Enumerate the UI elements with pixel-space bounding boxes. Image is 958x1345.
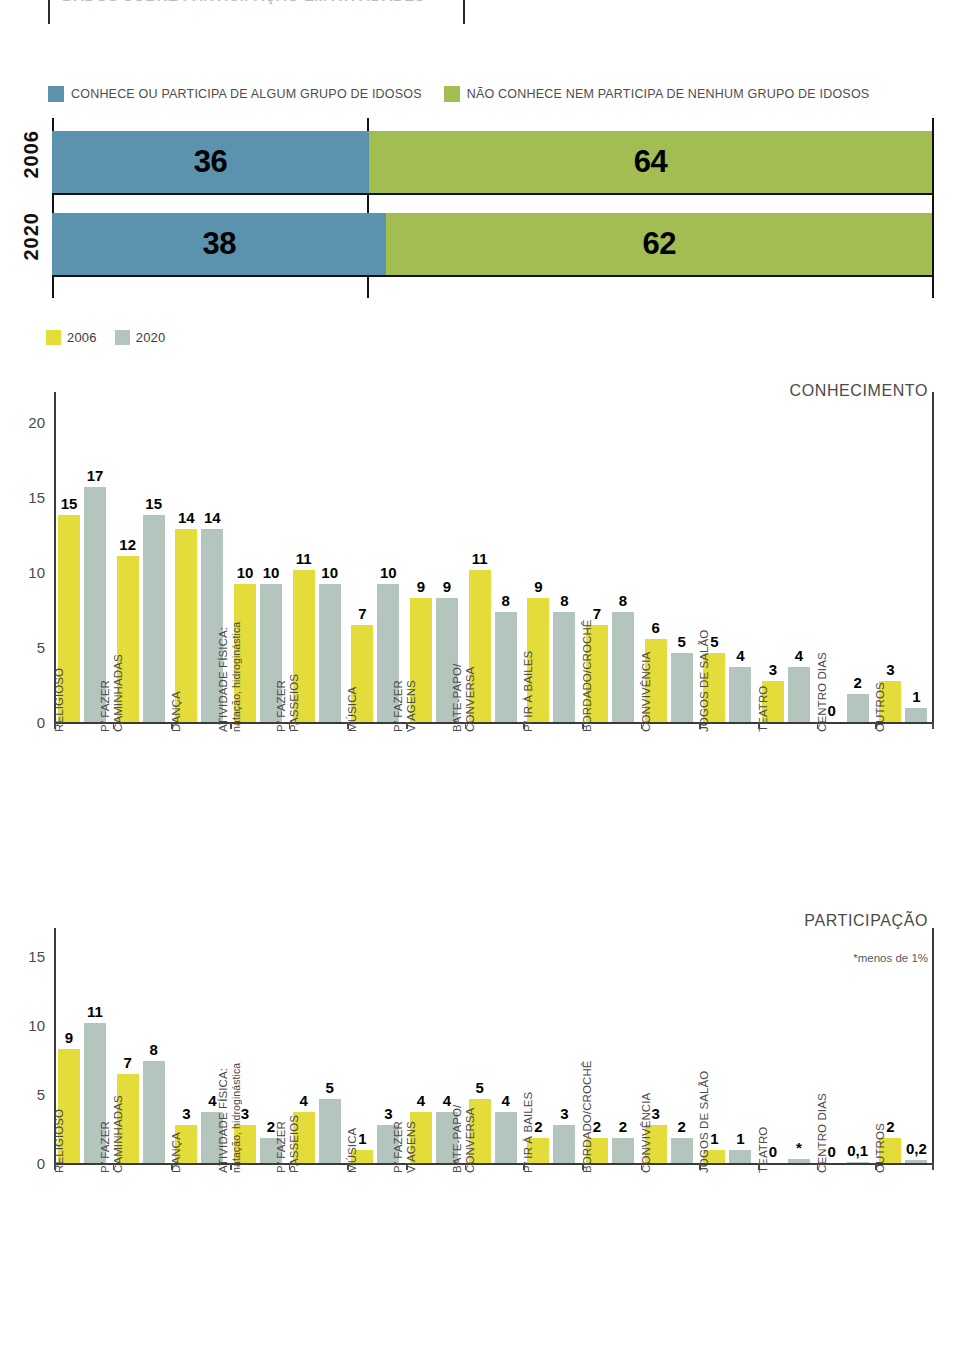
bar-2020[interactable] — [495, 612, 517, 722]
x-axis-label: OUTROS — [874, 682, 887, 732]
bar-value-label: 9 — [443, 578, 451, 595]
x-axis-label-line: BATE-PAPO/ — [450, 1105, 463, 1173]
bar-group[interactable]: 34 — [758, 392, 817, 722]
bar-2020[interactable] — [905, 708, 927, 722]
x-axis-label: BATE-PAPO/CONVERSA — [450, 664, 476, 732]
bar-value-label: 3 — [769, 661, 777, 678]
title-rule-left — [48, 0, 50, 24]
legend-swatch-olive — [444, 86, 460, 102]
bar-2020[interactable] — [847, 1162, 869, 1163]
stacked-value-not-2020: 62 — [642, 226, 675, 262]
bar-value-label: 11 — [296, 550, 312, 567]
bar-2020[interactable] — [671, 653, 693, 722]
bar-value-label: 8 — [619, 592, 627, 609]
bar-2020[interactable] — [788, 1159, 810, 1163]
bar-value-label: 10 — [380, 564, 397, 581]
bar-group[interactable]: 31 — [875, 392, 934, 722]
x-axis-label: JOGOS DE SALÃO — [698, 1071, 711, 1173]
x-axis-label-line: CAMINHADAS — [111, 654, 124, 732]
title-rule-right — [463, 0, 465, 24]
plot-area-conhecimento: 0510152015171215141410101110710991189878… — [54, 392, 934, 722]
x-axis-label: BORDADO/CROCHÊ — [581, 1060, 594, 1173]
x-axis-label-line: TEATRO — [757, 1127, 770, 1173]
x-axis-line — [54, 1163, 934, 1165]
x-axis-label: DANÇA — [170, 1132, 183, 1173]
y-tick-label: 10 — [28, 1016, 45, 1033]
stacked-segment-not-2006: 64 — [369, 131, 932, 193]
y-tick-label: 5 — [37, 639, 45, 656]
stacked-value-not-2006: 64 — [634, 144, 667, 180]
legend-item-conhece: CONHECE OU PARTICIPA DE ALGUM GRUPO DE I… — [48, 86, 422, 102]
bar-value-label: 3 — [182, 1105, 190, 1122]
bar-value-label: 7 — [123, 1054, 131, 1071]
bar-2020[interactable] — [319, 584, 341, 722]
bar-2020[interactable] — [553, 612, 575, 722]
bar-2020[interactable] — [612, 612, 634, 722]
x-axis-label-line: JOGOS DE SALÃO — [698, 630, 711, 732]
bar-value-label: 4 — [501, 1092, 509, 1109]
bar-value-label: 5 — [677, 633, 685, 650]
x-axis-label-line: OUTROS — [874, 1123, 887, 1173]
bar-value-label: 3 — [560, 1105, 568, 1122]
bar-2020[interactable] — [905, 1160, 927, 1163]
bar-value-label: 3 — [886, 661, 894, 678]
legend-label-nao-conhece: NÃO CONHECE NEM PARTICIPA DE NENHUM GRUP… — [467, 87, 870, 101]
series-legend-item-2020: 2020 — [115, 330, 166, 345]
bar-value-label: 17 — [87, 467, 104, 484]
x-axis-label-line: DANÇA — [170, 691, 183, 732]
x-axis-label: P/ FAZERPASSEIOS — [274, 674, 300, 732]
x-axis-label-line: BORDADO/CROCHÊ — [581, 1060, 594, 1173]
stacked-bar-chart: 2006 36 64 2020 38 62 — [0, 118, 958, 298]
bar-2020[interactable] — [671, 1138, 693, 1163]
x-axis-label-line: P/ FAZER — [392, 680, 405, 732]
stacked-row-2020: 38 62 — [52, 213, 932, 275]
stacked-segment-not-2020: 62 — [386, 213, 932, 275]
stacked-row-2006: 36 64 — [52, 131, 932, 193]
bar-2020[interactable] — [729, 667, 751, 722]
bar-value-label: 7 — [358, 605, 366, 622]
bar-2020[interactable] — [612, 1138, 634, 1163]
x-axis-label: TEATRO — [757, 1127, 770, 1173]
chart-participacao: PARTICIPAÇÃO *menos de 1% 05101591178343… — [0, 900, 958, 1345]
bar-value-label: * — [796, 1139, 802, 1156]
y-tick-label: 15 — [28, 489, 45, 506]
x-axis-label-line: P/ IR À BAILES — [522, 651, 535, 732]
bar-value-label: 9 — [65, 1029, 73, 1046]
x-axis-label-line: CAMINHADAS — [111, 1095, 124, 1173]
x-tick-mark — [932, 1163, 934, 1170]
bar-value-label: 4 — [417, 1092, 425, 1109]
bar-2020[interactable] — [143, 515, 165, 722]
legend-item-nao-conhece: NÃO CONHECE NEM PARTICIPA DE NENHUM GRUP… — [444, 86, 870, 102]
x-axis-label: MÚSICA — [346, 687, 359, 732]
x-axis-label-line: MÚSICA — [346, 687, 359, 732]
bar-value-label: 0 — [769, 1143, 777, 1160]
bar-value-label: 2 — [886, 1118, 894, 1135]
bar-value-label: 2 — [619, 1118, 627, 1135]
bar-value-label: 10 — [237, 564, 254, 581]
bar-value-label: 3 — [241, 1105, 249, 1122]
x-axis-label-line: P/ FAZER — [392, 1121, 405, 1173]
y-tick-label: 5 — [37, 1085, 45, 1102]
bar-2020[interactable] — [847, 694, 869, 722]
bar-group[interactable]: 710 — [347, 392, 406, 722]
x-axis-label: P/ FAZERCAMINHADAS — [98, 654, 124, 732]
x-axis-label-line: PASSEIOS — [287, 1115, 300, 1173]
x-axis-label: P/ FAZERPASSEIOS — [274, 1115, 300, 1173]
x-axis-label-line: CONVIVÊNCIA — [639, 652, 652, 732]
bar-2020[interactable] — [729, 1150, 751, 1163]
x-axis-label: P/ FAZERVIAGENS — [392, 1121, 418, 1173]
bar-2020[interactable] — [319, 1099, 341, 1163]
bar-2020[interactable] — [143, 1061, 165, 1163]
bar-2020[interactable] — [495, 1112, 517, 1163]
stacked-legend: CONHECE OU PARTICIPA DE ALGUM GRUPO DE I… — [48, 84, 948, 104]
legend-label-conhece: CONHECE OU PARTICIPA DE ALGUM GRUPO DE I… — [71, 87, 422, 101]
y-tick-label: 10 — [28, 564, 45, 581]
stacked-year-label-2006: 2006 — [20, 149, 43, 179]
bar-2020[interactable] — [553, 1125, 575, 1163]
bar-value-label: 2 — [593, 1118, 601, 1135]
x-axis-label-line: natação, hidroginástica — [230, 622, 242, 732]
stacked-baseline-2006 — [52, 193, 932, 195]
bar-2020[interactable] — [788, 667, 810, 722]
bar-group[interactable]: 1110 — [289, 392, 348, 722]
x-axis-label-line: TEATRO — [757, 686, 770, 732]
